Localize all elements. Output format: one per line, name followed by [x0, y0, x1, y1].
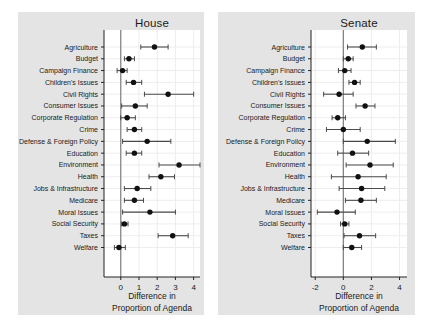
data-point	[116, 245, 121, 250]
category-label: Social Security	[259, 220, 306, 228]
agenda-difference-figure: House AgricultureBudgetCampaign FinanceC…	[0, 0, 425, 331]
category-label: Consumer Issues	[44, 102, 99, 109]
data-point	[126, 56, 131, 61]
data-point	[362, 103, 367, 108]
house-panel: House AgricultureBudgetCampaign FinanceC…	[18, 12, 204, 315]
category-label: Jobs & Infrastructure	[33, 185, 98, 192]
category-label: Defense & Foreign Policy	[19, 138, 98, 146]
x-tick-label: 4	[397, 283, 402, 292]
x-tick-label: 0	[119, 283, 124, 292]
x-tick-label: -2	[312, 283, 320, 292]
data-point	[358, 198, 363, 203]
data-point	[334, 209, 339, 214]
category-label: Health	[285, 173, 305, 180]
data-point	[346, 56, 351, 61]
category-label: Health	[78, 173, 98, 180]
category-label: Social Security	[52, 220, 99, 228]
data-point	[342, 68, 347, 73]
category-label: Agriculture	[272, 44, 306, 52]
category-label: Moral Issues	[265, 209, 305, 216]
category-label: Welfare	[281, 244, 305, 251]
category-label: Taxes	[80, 232, 99, 239]
x-axis-label: Difference in	[128, 291, 176, 301]
category-label: Campaign Finance	[39, 67, 98, 75]
data-point	[120, 68, 125, 73]
data-point	[365, 139, 370, 144]
category-label: Campaign Finance	[246, 67, 305, 75]
category-label: Children's Issues	[252, 79, 306, 86]
category-label: Taxes	[287, 232, 306, 239]
category-label: Budget	[283, 55, 305, 63]
category-label: Welfare	[74, 244, 98, 251]
senate-plot: AgricultureBudgetCampaign FinanceChildre…	[218, 12, 415, 315]
house-plot: AgricultureBudgetCampaign FinanceChildre…	[18, 12, 204, 315]
category-label: Civil Rights	[63, 91, 99, 99]
data-point	[342, 221, 347, 226]
data-point	[165, 91, 170, 96]
x-axis-label: Difference in	[335, 291, 383, 301]
data-point	[132, 198, 137, 203]
data-point	[144, 139, 149, 144]
data-point	[132, 150, 137, 155]
category-label: Jobs & Infrastructure	[240, 185, 305, 192]
data-point	[357, 233, 362, 238]
category-label: Environment	[59, 161, 98, 168]
data-point	[355, 174, 360, 179]
data-point	[341, 127, 346, 132]
data-point	[147, 209, 152, 214]
senate-panel: Senate AgricultureBudgetCampaign Finance…	[218, 12, 415, 315]
category-label: Crime	[286, 126, 305, 133]
data-point	[350, 150, 355, 155]
category-label: Consumer Issues	[251, 102, 306, 109]
data-point	[158, 174, 163, 179]
category-label: Budget	[76, 55, 98, 63]
category-label: Education	[274, 150, 305, 157]
category-label: Medicare	[69, 197, 98, 204]
x-axis-label: Proportion of Agenda	[112, 303, 192, 313]
data-point	[134, 186, 139, 191]
data-point	[336, 91, 341, 96]
house-panel-title: House	[104, 17, 200, 29]
category-label: Corporate Regulation	[238, 114, 305, 122]
category-label: Civil Rights	[270, 91, 306, 99]
category-label: Medicare	[276, 197, 305, 204]
category-label: Moral Issues	[58, 209, 98, 216]
data-point	[131, 80, 136, 85]
category-label: Defense & Foreign Policy	[226, 138, 305, 146]
category-label: Corporate Regulation	[31, 114, 98, 122]
data-point	[124, 115, 129, 120]
x-tick-label: 4	[191, 283, 196, 292]
data-point	[367, 162, 372, 167]
data-point	[176, 162, 181, 167]
senate-panel-title: Senate	[311, 17, 407, 29]
data-point	[122, 221, 127, 226]
data-point	[170, 233, 175, 238]
data-point	[132, 127, 137, 132]
data-point	[359, 186, 364, 191]
data-point	[152, 44, 157, 49]
category-label: Environment	[266, 161, 305, 168]
data-point	[360, 44, 365, 49]
category-label: Agriculture	[65, 44, 99, 52]
data-point	[349, 245, 354, 250]
x-axis-label: Proportion of Agenda	[319, 303, 399, 313]
data-point	[133, 103, 138, 108]
data-point	[335, 115, 340, 120]
category-label: Crime	[79, 126, 98, 133]
category-label: Children's Issues	[45, 79, 99, 86]
category-label: Education	[67, 150, 98, 157]
data-point	[352, 80, 357, 85]
